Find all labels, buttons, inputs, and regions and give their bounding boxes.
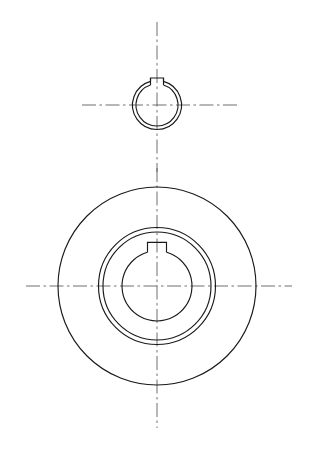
technical-drawing-canvas (0, 0, 313, 449)
main-view-hub (26, 168, 292, 428)
detail-view-top (82, 22, 238, 172)
drawing-svg (0, 0, 313, 449)
